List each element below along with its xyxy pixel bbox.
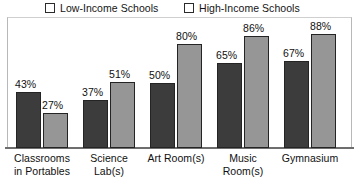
bar-classrooms-in-portables-low-income-schools <box>16 92 41 148</box>
bar-art-rooms-high-income-schools <box>177 44 202 148</box>
value-label-science-labs-low-income-schools: 37% <box>82 87 103 98</box>
value-label-art-rooms-high-income-schools: 80% <box>176 31 197 42</box>
bar-music-rooms-high-income-schools <box>244 36 269 148</box>
bars-layer: 43%27%Classroomsin Portables37%51%Scienc… <box>0 0 358 186</box>
value-label-classrooms-in-portables-high-income-schools: 27% <box>42 100 63 111</box>
bar-gymnasium-high-income-schools <box>311 34 336 148</box>
bar-science-labs-high-income-schools <box>110 82 135 148</box>
value-label-science-labs-high-income-schools: 51% <box>109 69 130 80</box>
value-label-classrooms-in-portables-low-income-schools: 43% <box>15 79 36 90</box>
bar-music-rooms-low-income-schools <box>217 63 242 148</box>
value-label-music-rooms-high-income-schools: 86% <box>243 23 264 34</box>
bar-science-labs-low-income-schools <box>83 100 108 148</box>
bar-gymnasium-low-income-schools <box>284 61 309 148</box>
bar-art-rooms-low-income-schools <box>150 83 175 148</box>
category-label-line: Room(s) <box>183 165 303 178</box>
bar-classrooms-in-portables-high-income-schools <box>43 113 68 148</box>
bar-chart: Low-Income Schools High-Income Schools 4… <box>0 0 358 186</box>
value-label-gymnasium-low-income-schools: 67% <box>283 48 304 59</box>
category-label-gymnasium: Gymnasium <box>250 152 358 165</box>
value-label-music-rooms-low-income-schools: 65% <box>216 50 237 61</box>
category-label-line: Gymnasium <box>250 152 358 165</box>
category-label-line: Lab(s) <box>49 165 169 178</box>
value-label-gymnasium-high-income-schools: 88% <box>310 21 331 32</box>
value-label-art-rooms-low-income-schools: 50% <box>149 70 170 81</box>
